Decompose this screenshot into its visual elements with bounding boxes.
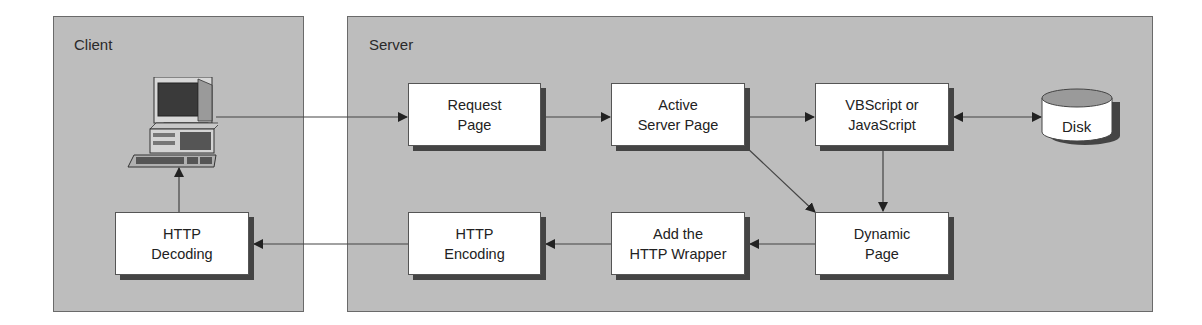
node-request-page: Request Page (408, 83, 541, 146)
node-http-encoding: HTTP Encoding (408, 212, 541, 275)
desktop-computer-icon (126, 77, 218, 169)
node-request-page-line1: Request (447, 95, 501, 115)
node-encoding-line1: HTTP (456, 224, 494, 244)
node-wrapper-line2: HTTP Wrapper (630, 244, 727, 264)
edge-asp-to-dynamic (745, 146, 815, 212)
node-dynamic-page: Dynamic Page (815, 212, 949, 275)
node-wrapper-line1: Add the (653, 224, 703, 244)
node-dynamic-line1: Dynamic (854, 224, 910, 244)
node-asp-line2: Server Page (638, 115, 719, 135)
node-add-http-wrapper: Add the HTTP Wrapper (611, 212, 745, 275)
node-decoding-line1: HTTP (163, 224, 201, 244)
disk-label: Disk (1062, 118, 1091, 135)
node-active-server-page: Active Server Page (611, 83, 745, 146)
node-request-page-line2: Page (458, 115, 492, 135)
node-asp-line1: Active (658, 95, 698, 115)
node-encoding-line2: Encoding (444, 244, 504, 264)
node-decoding-line2: Decoding (151, 244, 212, 264)
node-script-line1: VBScript or (845, 95, 918, 115)
node-dynamic-line2: Page (865, 244, 899, 264)
node-script-line2: JavaScript (848, 115, 916, 135)
node-script: VBScript or JavaScript (815, 83, 949, 146)
node-http-decoding: HTTP Decoding (115, 212, 249, 275)
